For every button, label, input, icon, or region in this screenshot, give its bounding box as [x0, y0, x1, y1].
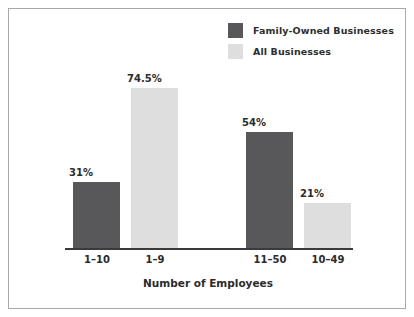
bar-10-49 — [304, 203, 351, 248]
legend-item-all-businesses: All Businesses — [228, 44, 394, 59]
chart-frame: Family-Owned Businesses All Businesses 3… — [8, 8, 406, 309]
legend-item-family-owned-businesses: Family-Owned Businesses — [228, 23, 394, 38]
legend-swatch-dark — [228, 23, 243, 38]
x-tick-label-10-49: 10–49 — [298, 254, 358, 265]
bar-value-label-1-10: 31% — [69, 167, 93, 178]
bar-11-50 — [246, 132, 293, 248]
legend-label-all-businesses: All Businesses — [253, 44, 331, 59]
x-tick-label-1-10: 1–10 — [67, 254, 127, 265]
x-axis-title: Number of Employees — [9, 277, 407, 289]
chart-legend: Family-Owned Businesses All Businesses — [228, 23, 394, 59]
bar-1-10 — [73, 182, 120, 248]
bar-value-label-1-9: 74.5% — [127, 73, 162, 84]
x-axis-line — [65, 248, 353, 250]
x-tick-label-1-9: 1–9 — [125, 254, 185, 265]
bar-1-9 — [131, 88, 178, 248]
legend-label-family-owned-businesses: Family-Owned Businesses — [253, 23, 394, 38]
bar-value-label-11-50: 54% — [242, 117, 266, 128]
legend-swatch-light — [228, 44, 243, 59]
plot-area: Family-Owned Businesses All Businesses 3… — [9, 9, 407, 310]
bar-value-label-10-49: 21% — [300, 188, 324, 199]
x-tick-label-11-50: 11–50 — [240, 254, 300, 265]
